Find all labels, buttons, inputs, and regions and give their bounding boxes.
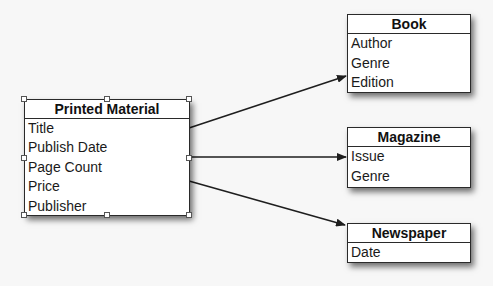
resize-handle-n[interactable] — [104, 96, 110, 102]
edge-printed-to-newspaper[interactable] — [189, 181, 345, 225]
edge-printed-to-book[interactable] — [189, 76, 346, 128]
attribute: Edition — [351, 73, 470, 93]
entity-printed-material[interactable]: Printed Material Title Publish Date Page… — [24, 99, 190, 216]
entity-newspaper[interactable]: Newspaper Date — [347, 223, 471, 263]
diagram-canvas: Printed Material Title Publish Date Page… — [0, 0, 493, 286]
entity-magazine[interactable]: Magazine Issue Genre — [347, 127, 471, 188]
entity-title: Printed Material — [25, 100, 189, 119]
resize-handle-e[interactable] — [186, 155, 192, 161]
attribute: Price — [28, 177, 189, 196]
attribute: Date — [351, 243, 470, 263]
entity-title: Magazine — [348, 128, 470, 147]
attribute: Genre — [351, 167, 470, 187]
attribute-list: Title Publish Date Page Count Price Publ… — [25, 119, 189, 216]
attribute: Publish Date — [28, 138, 189, 157]
entity-book[interactable]: Book Author Genre Edition — [347, 14, 471, 93]
attribute: Title — [28, 119, 189, 138]
resize-handle-sw[interactable] — [21, 212, 27, 218]
resize-handle-s[interactable] — [104, 212, 110, 218]
entity-title: Book — [348, 15, 470, 34]
attribute: Page Count — [28, 158, 189, 177]
resize-handle-w[interactable] — [21, 155, 27, 161]
resize-handle-ne[interactable] — [186, 96, 192, 102]
resize-handle-se[interactable] — [186, 212, 192, 218]
attribute: Genre — [351, 54, 470, 74]
attribute: Issue — [351, 147, 470, 167]
attribute-list: Author Genre Edition — [348, 34, 470, 93]
attribute: Author — [351, 34, 470, 54]
entity-title: Newspaper — [348, 224, 470, 243]
attribute-list: Date — [348, 243, 470, 263]
attribute-list: Issue Genre — [348, 147, 470, 186]
resize-handle-nw[interactable] — [21, 96, 27, 102]
